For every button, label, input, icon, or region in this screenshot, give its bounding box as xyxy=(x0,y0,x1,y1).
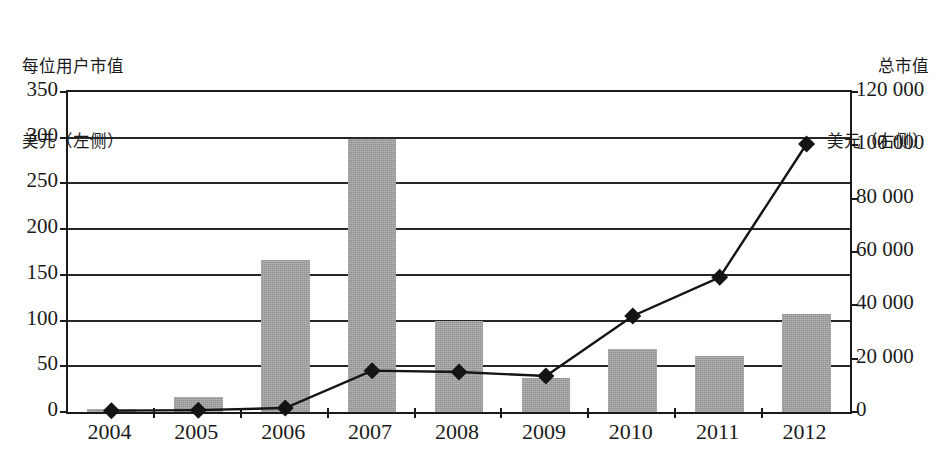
left-tick-label: 200 xyxy=(0,216,58,237)
x-axis-label: 2004 xyxy=(66,418,153,446)
left-tick-label: 350 xyxy=(0,79,58,100)
x-tick-mark xyxy=(500,408,502,418)
left-tick-label: 150 xyxy=(0,262,58,283)
x-tick-mark xyxy=(587,408,589,418)
line-marker-diamond xyxy=(711,269,728,286)
right-tick-mark xyxy=(850,198,858,200)
x-axis-labels: 200420052006200720082009201020112012 xyxy=(66,418,848,448)
left-tick-mark xyxy=(60,91,68,93)
line-marker-diamond xyxy=(277,400,294,417)
left-tick-mark xyxy=(60,182,68,184)
line-marker-diamond xyxy=(103,402,120,419)
right-tick-mark xyxy=(850,304,858,306)
left-tick-mark xyxy=(60,137,68,139)
right-tick-mark xyxy=(850,251,858,253)
right-tick-label: 100 000 xyxy=(856,132,937,153)
line-marker-diamond xyxy=(451,364,468,381)
line-marker-diamond xyxy=(190,402,207,419)
x-axis-label: 2009 xyxy=(500,418,587,446)
right-tick-label: 120 000 xyxy=(856,79,937,100)
right-tick-label: 20 000 xyxy=(856,346,937,367)
x-tick-mark xyxy=(240,408,242,418)
x-axis-label: 2011 xyxy=(674,418,761,446)
right-tick-mark xyxy=(850,144,858,146)
left-tick-label: 50 xyxy=(0,353,58,374)
line-marker-diamond xyxy=(537,368,554,385)
right-tick-mark xyxy=(850,358,858,360)
right-tick-label: 80 000 xyxy=(856,186,937,207)
left-axis-title-line-1: 每位用户市值 xyxy=(22,54,124,79)
x-axis-label: 2010 xyxy=(587,418,674,446)
left-tick-mark xyxy=(60,365,68,367)
left-tick-label: 300 xyxy=(0,125,58,146)
left-tick-label: 250 xyxy=(0,170,58,191)
x-tick-mark xyxy=(153,408,155,418)
left-axis-tick-labels: 050100150200250300350 xyxy=(0,90,58,410)
right-tick-mark xyxy=(850,411,858,413)
x-axis-label: 2007 xyxy=(327,418,414,446)
line-marker-diamond xyxy=(624,308,641,325)
left-tick-label: 100 xyxy=(0,308,58,329)
x-axis-label: 2005 xyxy=(153,418,240,446)
right-tick-label: 60 000 xyxy=(856,239,937,260)
left-tick-mark xyxy=(60,228,68,230)
left-tick-mark xyxy=(60,274,68,276)
x-axis-label: 2008 xyxy=(414,418,501,446)
left-tick-label: 0 xyxy=(0,399,58,420)
right-tick-label: 40 000 xyxy=(856,292,937,313)
x-tick-mark xyxy=(674,408,676,418)
plot-area xyxy=(66,90,852,414)
line-marker-diamond xyxy=(798,136,815,153)
right-axis-tick-labels: 020 00040 00060 00080 000100 000120 000 xyxy=(856,90,937,410)
x-tick-mark xyxy=(761,408,763,418)
x-tick-mark xyxy=(327,408,329,418)
line-marker-diamond xyxy=(364,362,381,379)
x-axis-label: 2012 xyxy=(761,418,848,446)
left-tick-mark xyxy=(60,320,68,322)
x-axis-label: 2006 xyxy=(240,418,327,446)
chart-root: 每位用户市值 美元（左侧） 总市值 美元（右侧） 050100150200250… xyxy=(0,0,937,450)
left-tick-mark xyxy=(60,411,68,413)
line-series xyxy=(68,92,850,412)
x-tick-mark xyxy=(414,408,416,418)
right-axis-title-line-1: 总市值 xyxy=(827,54,929,79)
right-tick-label: 0 xyxy=(856,399,937,420)
right-tick-mark xyxy=(850,91,858,93)
